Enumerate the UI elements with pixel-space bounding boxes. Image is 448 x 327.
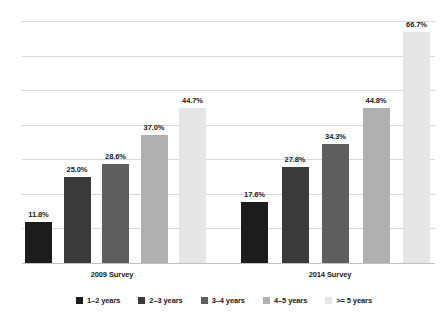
bar-value-label: 25.0% bbox=[67, 165, 88, 174]
bar-value-label: 27.8% bbox=[285, 155, 306, 164]
bar-slot: 17.6% bbox=[241, 21, 268, 263]
legend-label: 3–4 years bbox=[212, 296, 245, 305]
bar-group-2014-survey: 17.6%27.8%34.3%44.8%66.7% bbox=[241, 21, 435, 263]
legend-item[interactable]: 2–3 years bbox=[138, 296, 182, 305]
bar-slot: 25.0% bbox=[64, 21, 91, 263]
bar-value-label: 11.8% bbox=[28, 210, 48, 219]
bar-chart: 11.8%25.0%28.6%37.0%44.7% 17.6%27.8%34.3… bbox=[0, 0, 448, 327]
bar[interactable] bbox=[241, 202, 268, 263]
legend-swatch-icon bbox=[263, 297, 270, 304]
bar-slot: 66.7% bbox=[403, 21, 430, 263]
legend-label: 1–2 years bbox=[87, 296, 120, 305]
legend-label: >= 5 years bbox=[336, 296, 372, 305]
bar-value-label: 34.3% bbox=[325, 132, 346, 141]
legend-item[interactable]: 1–2 years bbox=[76, 296, 120, 305]
bar[interactable] bbox=[102, 164, 129, 263]
category-label: 2009 Survey bbox=[91, 270, 134, 279]
legend-swatch-icon bbox=[325, 297, 332, 304]
chart-legend: 1–2 years2–3 years3–4 years4–5 years>= 5… bbox=[0, 296, 448, 305]
plot-area: 11.8%25.0%28.6%37.0%44.7% 17.6%27.8%34.3… bbox=[22, 21, 435, 263]
bar-slot: 28.6% bbox=[102, 21, 129, 263]
bar[interactable] bbox=[282, 167, 309, 263]
bar[interactable] bbox=[363, 108, 390, 263]
bar-value-label: 44.8% bbox=[366, 96, 387, 105]
bar-value-label: 66.7% bbox=[406, 20, 427, 29]
bar-slot: 34.3% bbox=[322, 21, 349, 263]
bar[interactable] bbox=[403, 32, 430, 263]
bar-value-label: 44.7% bbox=[182, 96, 203, 105]
bar[interactable] bbox=[25, 222, 52, 263]
legend-swatch-icon bbox=[138, 297, 145, 304]
legend-item[interactable]: 4–5 years bbox=[263, 296, 307, 305]
axis-baseline bbox=[22, 263, 435, 264]
legend-item[interactable]: 3–4 years bbox=[201, 296, 245, 305]
bar[interactable] bbox=[141, 135, 168, 263]
bar-slot: 37.0% bbox=[141, 21, 168, 263]
bar-slot: 44.7% bbox=[179, 21, 206, 263]
legend-swatch-icon bbox=[201, 297, 208, 304]
bar-value-label: 17.6% bbox=[244, 190, 265, 199]
legend-item[interactable]: >= 5 years bbox=[325, 296, 372, 305]
bar[interactable] bbox=[179, 108, 206, 263]
bar-slot: 27.8% bbox=[282, 21, 309, 263]
bar-group-2009-survey: 11.8%25.0%28.6%37.0%44.7% bbox=[25, 21, 211, 263]
bar-value-label: 37.0% bbox=[144, 123, 165, 132]
bar-value-label: 28.6% bbox=[105, 152, 126, 161]
bar-slot: 11.8% bbox=[25, 21, 52, 263]
legend-label: 4–5 years bbox=[274, 296, 307, 305]
legend-swatch-icon bbox=[76, 297, 83, 304]
category-label: 2014 Survey bbox=[309, 270, 352, 279]
bar[interactable] bbox=[322, 144, 349, 263]
bar[interactable] bbox=[64, 177, 91, 263]
legend-label: 2–3 years bbox=[149, 296, 182, 305]
bar-slot: 44.8% bbox=[363, 21, 390, 263]
